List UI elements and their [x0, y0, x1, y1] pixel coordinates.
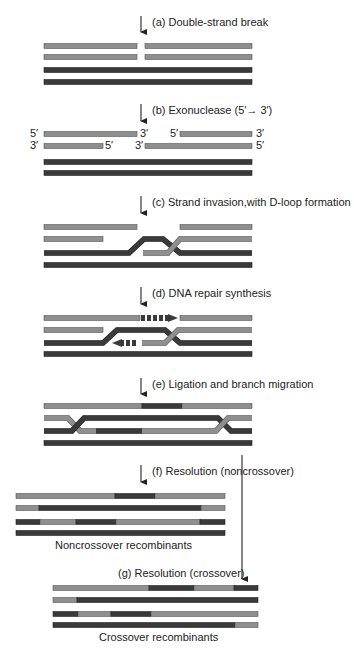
dna-strand-light — [44, 237, 103, 242]
dna-strand-dark — [111, 612, 151, 617]
panel-g — [53, 586, 258, 628]
dna-strand-light — [40, 520, 76, 525]
synthesis-dash — [132, 340, 136, 346]
dna-strand-dark — [44, 352, 252, 357]
dna-strand-dark — [149, 586, 194, 591]
dna-strand-light — [44, 404, 142, 409]
dna-strand-dark — [53, 612, 78, 617]
step-label-g: (g) Resolution (crossover) — [118, 567, 245, 579]
synthesis-arrowhead-icon — [112, 339, 122, 347]
strand-end-label: 3′ — [140, 127, 148, 139]
synthesis-dash — [159, 315, 163, 321]
dna-strand-light — [182, 404, 252, 409]
dna-strand-light — [44, 55, 137, 60]
strand-end-label: 3′ — [30, 139, 38, 151]
strand-end-label: 5′ — [105, 139, 113, 151]
dna-strand-light — [44, 132, 137, 137]
synthesis-dash — [126, 340, 130, 346]
noncrossover-caption: Noncrossover recombinants — [55, 539, 192, 551]
step-label-b: (b) Exonuclease (5′→ 3′) — [152, 104, 272, 116]
dna-strand-light — [145, 55, 252, 60]
dna-strand-dark — [53, 623, 235, 628]
dna-strand-light — [16, 506, 39, 511]
strand-end-label: 3′ — [135, 139, 143, 151]
dna-strand-dark — [115, 494, 155, 499]
strand-end-label: 5′ — [30, 127, 38, 139]
dna-strand-dark — [200, 520, 225, 525]
strand-end-label: 3′ — [256, 127, 264, 139]
dna-strand-light — [194, 586, 234, 591]
dna-strand-dark — [234, 586, 258, 591]
crossover-caption: Crossover recombinants — [99, 631, 219, 643]
dna-strand-light — [44, 316, 140, 321]
step-label-a: (a) Double-strand break — [152, 16, 269, 28]
strand-end-label: 5′ — [170, 127, 178, 139]
dna-strand-dark — [16, 520, 40, 525]
synthesis-dash — [141, 315, 145, 321]
dna-strand-light — [44, 328, 103, 333]
step-label-e: (e) Ligation and branch migration — [152, 378, 313, 390]
panel-d — [44, 314, 252, 357]
dna-strand-light — [44, 225, 137, 230]
dna-strand-light — [151, 612, 258, 617]
panel-f — [16, 494, 225, 536]
panel-e — [44, 404, 252, 446]
dna-strand-dark — [44, 68, 252, 73]
strand-end-label: 5′ — [256, 139, 264, 151]
dna-strand-light — [145, 44, 252, 49]
dna-strand-light — [16, 494, 115, 499]
dna-strand-dark — [44, 441, 252, 446]
dna-strand-light — [116, 520, 200, 525]
dna-strand-light — [180, 225, 252, 230]
dna-strand-dark — [39, 506, 201, 511]
dna-strand-light — [235, 623, 258, 628]
dna-strand-light — [78, 612, 111, 617]
dna-strand-light — [180, 316, 252, 321]
step-label-f: (f) Resolution (noncrossover) — [152, 465, 294, 477]
dna-strand-dark — [44, 80, 252, 85]
dna-strand-light — [201, 506, 225, 511]
dna-strand-dark — [76, 520, 116, 525]
panel-c — [44, 225, 252, 268]
synthesis-dash — [153, 315, 157, 321]
dna-strand-dark — [44, 263, 252, 268]
step-label-c: (c) Strand invasion,with D-loop formatio… — [152, 196, 351, 208]
dna-strand-dark — [16, 531, 225, 536]
dna-strand-light — [44, 144, 103, 149]
dna-strand-dark — [77, 598, 258, 603]
dna-strand-light — [145, 144, 252, 149]
synthesis-arrowhead-icon — [168, 314, 178, 322]
dna-strand-light — [155, 494, 225, 499]
step-label-d: (d) DNA repair synthesis — [152, 287, 272, 299]
panel-a — [44, 44, 252, 85]
dna-strand-light — [44, 44, 137, 49]
dna-strand-light — [180, 132, 252, 137]
dna-strand-dark — [142, 404, 182, 409]
dna-strand-dark — [44, 160, 252, 165]
dna-strand-light — [53, 598, 77, 603]
synthesis-dash — [147, 315, 151, 321]
dna-strand-light — [53, 586, 149, 591]
homologous-recombination-diagram: (a) Double-strand break(b) Exonuclease (… — [0, 0, 354, 654]
dna-strand-dark — [44, 171, 252, 176]
